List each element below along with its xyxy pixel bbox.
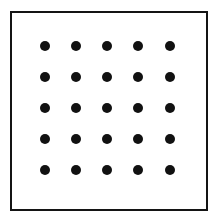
grid-dot xyxy=(165,165,175,175)
grid-dot xyxy=(71,41,81,51)
grid-dot xyxy=(102,165,112,175)
grid-dot xyxy=(40,165,50,175)
grid-dot xyxy=(165,103,175,113)
grid-dot xyxy=(71,134,81,144)
grid-dot xyxy=(102,41,112,51)
grid-dot xyxy=(133,134,143,144)
dot-grid xyxy=(0,0,217,223)
grid-dot xyxy=(165,134,175,144)
grid-dot xyxy=(40,72,50,82)
grid-dot xyxy=(165,41,175,51)
grid-dot xyxy=(71,103,81,113)
grid-dot xyxy=(133,165,143,175)
grid-dot xyxy=(133,72,143,82)
grid-dot xyxy=(165,72,175,82)
grid-dot xyxy=(102,103,112,113)
grid-dot xyxy=(102,72,112,82)
figure-canvas xyxy=(0,0,217,223)
grid-dot xyxy=(133,41,143,51)
grid-dot xyxy=(102,134,112,144)
grid-dot xyxy=(133,103,143,113)
grid-dot xyxy=(71,72,81,82)
grid-dot xyxy=(40,134,50,144)
grid-dot xyxy=(40,41,50,51)
grid-dot xyxy=(40,103,50,113)
grid-dot xyxy=(71,165,81,175)
